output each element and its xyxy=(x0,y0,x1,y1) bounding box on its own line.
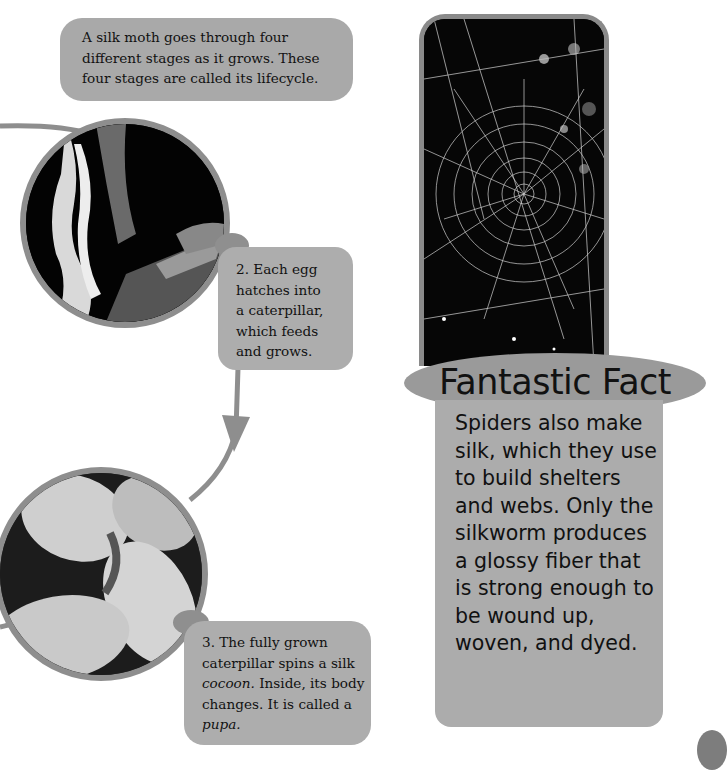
fact-body-text: Spiders also make silk, which they use t… xyxy=(455,411,657,655)
spider-web-photo xyxy=(419,14,609,366)
caption-line: hatches into xyxy=(236,280,347,301)
caption-line: which feeds xyxy=(236,321,347,342)
term-pupa: pupa. xyxy=(202,716,241,732)
page-number-tab xyxy=(697,730,727,770)
caption-line: a caterpillar, xyxy=(236,300,347,321)
intro-text: A silk moth goes through four different … xyxy=(82,29,319,86)
eggs-and-caterpillar-photo xyxy=(20,118,230,328)
caption-line: 2. Each egg xyxy=(236,259,347,280)
fact-title: Fantastic Fact xyxy=(439,362,671,402)
stage2-caption: 2. Each egg hatches into a caterpillar, … xyxy=(218,247,353,370)
silk-cocoons-photo xyxy=(0,467,208,681)
caption-text: 3. The fully grown caterpillar spins a s… xyxy=(202,634,355,671)
intro-text-box: A silk moth goes through four different … xyxy=(60,18,353,101)
fact-body-box: Spiders also make silk, which they use t… xyxy=(435,400,663,727)
caption-line: and grows. xyxy=(236,341,347,362)
stage3-caption: 3. The fully grown caterpillar spins a s… xyxy=(184,621,371,745)
term-cocoon: cocoon. xyxy=(202,675,255,691)
arrow-head-icon xyxy=(222,415,250,452)
